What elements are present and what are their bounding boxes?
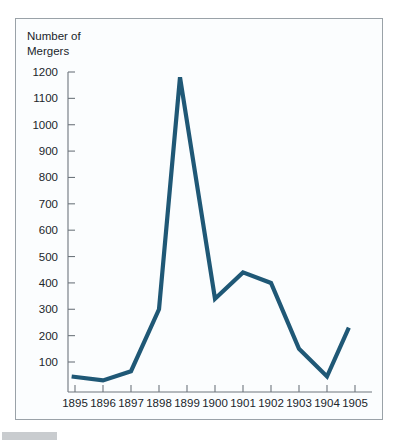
x-tick-label: 1905 [342, 397, 368, 409]
y-tick-label: 500 [39, 251, 58, 263]
y-tick-label: 1100 [33, 92, 58, 104]
x-tick-label: 1901 [230, 397, 256, 409]
x-tick-label: 1898 [146, 397, 172, 409]
footer-gray-bar [2, 432, 57, 440]
x-tick-label: 1896 [90, 397, 116, 409]
y-tick-label: 700 [39, 198, 58, 210]
x-tick-label: 1897 [118, 397, 144, 409]
x-tick-label: 1899 [174, 397, 200, 409]
y-tick-label: 600 [39, 224, 58, 236]
chart-canvas: Number ofMergers120011001000900800700600… [0, 0, 397, 445]
figure-root: Number ofMergers120011001000900800700600… [0, 0, 397, 445]
x-tick-label: 1904 [314, 397, 340, 409]
x-tick-label: 1902 [258, 397, 284, 409]
y-axis-title-line: Number of [27, 30, 81, 42]
y-tick-label: 1000 [32, 119, 58, 131]
y-tick-label: 1200 [32, 66, 58, 78]
y-tick-label: 800 [39, 171, 58, 183]
y-tick-label: 100 [39, 356, 58, 368]
x-tick-label: 1895 [62, 397, 88, 409]
y-axis-title-line: Mergers [27, 45, 69, 57]
x-tick-label: 1900 [202, 397, 228, 409]
merger-series-line [72, 77, 349, 380]
x-tick-label: 1903 [286, 397, 312, 409]
y-tick-label: 900 [39, 145, 58, 157]
y-tick-label: 300 [39, 303, 58, 315]
y-tick-label: 200 [39, 330, 58, 342]
y-tick-label: 400 [39, 277, 58, 289]
